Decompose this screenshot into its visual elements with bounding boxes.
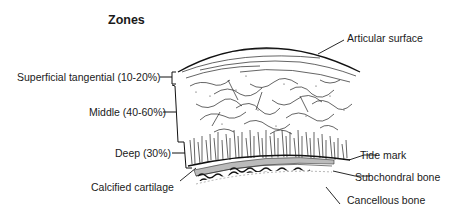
cartilage-tissue — [180, 49, 362, 164]
zones-heading: Zones — [108, 13, 145, 27]
zone-middle-label: Middle (40-60%) — [89, 106, 166, 118]
calcified-cartilage-label: Calcified cartilage — [91, 181, 174, 193]
zone-superficial-label: Superficial tangential (10-20%) — [17, 71, 161, 83]
articular-surface-label: Articular surface — [347, 32, 423, 44]
tide-mark-label: Tide mark — [360, 149, 406, 161]
leader-lines — [180, 40, 377, 204]
zone-deep-label: Deep (30%) — [115, 147, 171, 159]
cancellous-bone-label: Cancellous bone — [347, 194, 425, 206]
subchondral-bone-label: Subchondral bone — [355, 171, 440, 183]
